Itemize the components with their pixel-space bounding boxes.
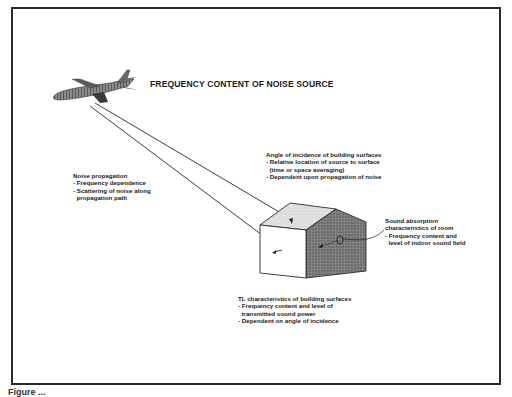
sound-absorption-heading2: characteristics of room [385, 224, 465, 231]
noise-propagation-bullet: propagation path [73, 194, 151, 201]
tl-bullet: - Frequency content and level of [238, 302, 351, 309]
sound-absorption-bullet: level of indoor sound field [385, 239, 465, 246]
noise-propagation-heading: Noise propagation [73, 172, 151, 179]
angle-heading: Angle of incidence of building surfaces [266, 151, 382, 158]
diagram-title: FREQUENCY CONTENT OF NOISE SOURCE [150, 79, 334, 89]
tl-bullet: - Dependent on angle of incidence [238, 317, 351, 324]
angle-bullet: (time or space averaging) [266, 166, 382, 173]
house-icon [260, 203, 366, 278]
tl-characteristics-label: TL characteristics of building surfaces-… [238, 295, 351, 325]
sound-absorption-heading: Sound absorption [385, 217, 465, 224]
noise-propagation-bullet: - Frequency dependence [73, 179, 151, 186]
noise-propagation-bullet: - Scattering of noise along [73, 187, 151, 194]
angle-bullet: - Relative location of source to surface [266, 158, 382, 165]
noise-propagation-label: Noise propagation- Frequency dependence-… [73, 172, 151, 202]
tl-heading: TL characteristics of building surfaces [238, 295, 351, 302]
tl-bullet: transmitted sound power [238, 310, 351, 317]
sound-absorption-label: Sound absorptioncharacteristics of room-… [385, 217, 465, 247]
angle-of-incidence-label: Angle of incidence of building surfaces-… [266, 151, 382, 181]
figure-caption-partial: Figure ... [8, 387, 46, 397]
airplane-icon [53, 70, 138, 103]
sound-absorption-bullet: - Frequency content and [385, 232, 465, 239]
angle-bullet: - Dependent upon propagation of noise [266, 173, 382, 180]
